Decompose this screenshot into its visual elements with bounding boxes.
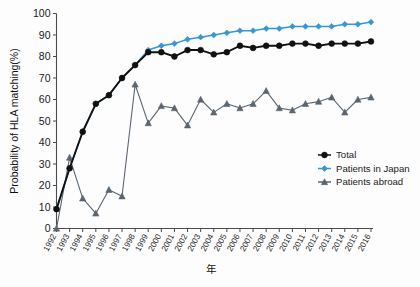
marker-circle [224, 49, 230, 55]
data-point-marker [250, 45, 256, 51]
data-point-marker [224, 49, 230, 55]
marker-circle [172, 54, 178, 60]
data-point-marker [158, 43, 164, 49]
data-point-marker [276, 43, 282, 49]
data-point-marker [250, 28, 256, 34]
marker-circle [119, 75, 125, 81]
marker-circle [303, 41, 309, 47]
y-tick-label: 40 [39, 136, 51, 148]
data-point-marker [263, 43, 269, 49]
data-point-marker [185, 36, 191, 42]
x-axis: 1992199319941995199619971998199920002001… [42, 229, 373, 254]
marker-triangle [80, 195, 86, 201]
marker-circle [250, 45, 256, 51]
data-point-marker [263, 26, 269, 32]
marker-circle [67, 165, 73, 171]
marker-circle [54, 206, 60, 212]
data-point-marker [355, 21, 361, 27]
marker-diamond [172, 41, 178, 47]
marker-circle [289, 41, 295, 47]
marker-circle [93, 101, 99, 107]
hla-matching-line-chart: 0102030405060708090100 19921993199419951… [0, 0, 420, 287]
marker-triangle [66, 154, 72, 160]
marker-diamond [289, 24, 295, 30]
data-point-marker [185, 47, 191, 53]
marker-diamond [322, 166, 328, 172]
y-axis: 0102030405060708090100 [33, 7, 57, 234]
marker-circle [316, 43, 322, 49]
marker-diamond [316, 24, 322, 30]
data-point-marker [303, 24, 309, 30]
data-point-marker [224, 101, 230, 107]
marker-circle [263, 43, 269, 49]
data-point-marker [211, 32, 217, 38]
legend-item-total: Total [318, 149, 356, 160]
data-point-marker [322, 152, 328, 158]
data-point-marker [132, 62, 138, 68]
chart-figure: 0102030405060708090100 19921993199419951… [0, 0, 420, 287]
data-point-marker [342, 41, 348, 47]
legend-item-label: Total [336, 149, 356, 160]
data-point-marker [224, 30, 230, 36]
data-point-marker [67, 165, 73, 171]
data-point-marker [80, 195, 86, 201]
legend-item-label: Patients abroad [336, 176, 403, 187]
marker-diamond [303, 24, 309, 30]
y-tick-label: 100 [33, 7, 51, 19]
marker-triangle [132, 81, 138, 87]
data-point-marker [80, 129, 86, 135]
data-point-marker [158, 103, 164, 109]
marker-diamond [329, 24, 335, 30]
marker-circle [368, 39, 374, 45]
x-axis-title: 年 [206, 263, 216, 275]
marker-diamond [158, 43, 164, 49]
y-tick-label: 10 [39, 201, 51, 213]
marker-diamond [250, 28, 256, 34]
marker-circle [322, 152, 328, 158]
y-axis-title: Probability of HLA matching(%) [8, 48, 20, 193]
y-tick-label: 0 [45, 222, 51, 234]
marker-triangle [329, 94, 335, 100]
marker-circle [106, 92, 112, 98]
data-point-marker [263, 88, 269, 94]
marker-circle [211, 51, 217, 57]
data-point-marker [237, 28, 243, 34]
y-tick-label: 20 [39, 179, 51, 191]
legend-item-patients-abroad: Patients abroad [318, 176, 403, 187]
marker-diamond [368, 19, 374, 25]
y-tick-label: 60 [39, 93, 51, 105]
data-point-marker [289, 24, 295, 30]
y-tick-label: 80 [39, 50, 51, 62]
marker-diamond [211, 32, 217, 38]
plot-series-group [53, 19, 374, 231]
marker-diamond [355, 21, 361, 27]
marker-circle [237, 43, 243, 49]
data-point-marker [342, 21, 348, 27]
marker-circle [145, 49, 151, 55]
data-point-marker [93, 101, 99, 107]
marker-circle [80, 129, 86, 135]
data-point-marker [172, 41, 178, 47]
data-point-marker [329, 94, 335, 100]
marker-circle [276, 43, 282, 49]
data-point-marker [106, 92, 112, 98]
marker-diamond [185, 36, 191, 42]
data-point-marker [329, 41, 335, 47]
chart-legend: TotalPatients in JapanPatients abroad [318, 149, 410, 187]
marker-triangle [198, 96, 204, 102]
data-point-marker [119, 193, 125, 199]
marker-circle [329, 41, 335, 47]
marker-diamond [198, 34, 204, 40]
y-tick-label: 70 [39, 72, 51, 84]
marker-diamond [276, 26, 282, 32]
legend-item-patients-in-japan: Patients in Japan [318, 163, 410, 174]
marker-diamond [342, 21, 348, 27]
data-point-marker [276, 26, 282, 32]
marker-diamond [224, 30, 230, 36]
data-point-marker [368, 39, 374, 45]
marker-triangle [158, 103, 164, 109]
data-point-marker [303, 41, 309, 47]
data-point-marker [106, 187, 112, 193]
data-point-marker [198, 34, 204, 40]
data-point-marker [211, 51, 217, 57]
